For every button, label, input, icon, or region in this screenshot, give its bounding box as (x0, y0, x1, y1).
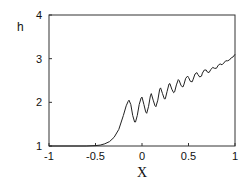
data-line (49, 54, 235, 146)
y-tick-label: 4 (36, 9, 42, 21)
x-axis-label: X (137, 165, 147, 180)
x-tick-label: 0 (139, 150, 145, 162)
plot-frame (49, 15, 235, 146)
line-chart: -1-0.500.51 1234 h X (0, 0, 249, 184)
y-tick-label: 2 (36, 96, 42, 108)
x-tick-label: -0.5 (86, 150, 105, 162)
y-axis-label: h (17, 20, 24, 34)
x-tick-label: 1 (232, 150, 238, 162)
y-tick-label: 3 (36, 53, 42, 65)
x-tick-label: 0.5 (181, 150, 196, 162)
y-axis-ticks: 1234 (36, 9, 52, 152)
x-tick-label: -1 (44, 150, 54, 162)
y-tick-label: 1 (36, 140, 42, 152)
